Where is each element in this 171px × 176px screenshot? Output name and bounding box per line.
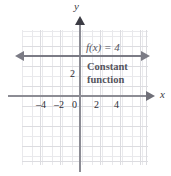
function-line-constant xyxy=(24,55,142,57)
function-equation-label: f(x) = 4 xyxy=(86,41,120,53)
x-axis-arrow-icon xyxy=(146,91,155,101)
function-caption: Constant function xyxy=(87,60,128,86)
function-arrow-right-icon xyxy=(141,51,150,61)
y-axis-arrow-icon xyxy=(75,16,85,25)
function-caption-line2: function xyxy=(87,73,128,86)
y-axis-label: y xyxy=(74,0,79,12)
function-arrow-left-icon xyxy=(15,51,24,61)
graph-grid-major xyxy=(22,30,148,165)
y-tick-label-2: 2 xyxy=(70,68,75,79)
x-tick-label-zero: 0 xyxy=(72,99,77,110)
constant-function-graph: y x f(x) = 4 Constant function –4 –2 0 2… xyxy=(0,0,171,176)
x-axis-line xyxy=(8,95,148,97)
y-axis-line xyxy=(79,24,81,172)
x-tick-label-neg2: –2 xyxy=(54,99,64,110)
x-tick-label-neg4: –4 xyxy=(36,99,46,110)
x-tick-label-2: 2 xyxy=(94,99,99,110)
x-tick-label-4: 4 xyxy=(114,99,119,110)
function-caption-line1: Constant xyxy=(87,60,128,73)
x-axis-label: x xyxy=(160,88,165,100)
